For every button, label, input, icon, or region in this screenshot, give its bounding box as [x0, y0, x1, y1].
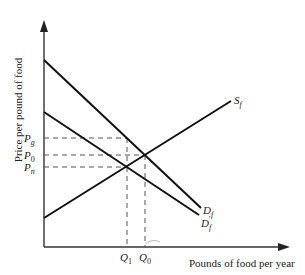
demand-curve-shifted	[44, 112, 199, 215]
supply-label: Sf	[234, 94, 244, 109]
supply-demand-diagram: Price per pound of food Pounds of food p…	[0, 0, 305, 275]
pg-label: Pg	[23, 132, 35, 147]
stray-mark	[146, 240, 160, 244]
y-axis-label: Price per pound of food	[12, 57, 24, 162]
x-axis-arrow-icon	[278, 243, 290, 251]
x-axis-label: Pounds of food per year	[189, 257, 295, 269]
q0-label: Q0	[139, 251, 151, 266]
supply-curve	[44, 101, 231, 218]
y-axis-arrow-icon	[40, 20, 48, 32]
q1-label: Q1	[120, 251, 132, 266]
